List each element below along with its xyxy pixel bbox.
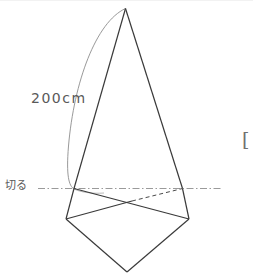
base-edge-left-lower	[66, 219, 127, 272]
base-edge-right-upper	[183, 189, 190, 220]
cone-right-slant-edge	[126, 9, 183, 189]
base-edge-right-lower	[127, 219, 189, 272]
cone-cut-diagram	[0, 0, 253, 279]
base-edge-left-upper	[66, 189, 74, 220]
base-diagonal-visible	[74, 189, 189, 220]
cut-label: 切る	[5, 180, 27, 191]
base-diagonal-solid-part	[66, 201, 132, 219]
base-diagonal-hidden-part	[132, 189, 183, 202]
figure-canvas: 200cm 切る [	[0, 0, 253, 279]
slant-length-label: 200cm	[31, 91, 87, 105]
bracket-marker: [	[242, 130, 249, 149]
